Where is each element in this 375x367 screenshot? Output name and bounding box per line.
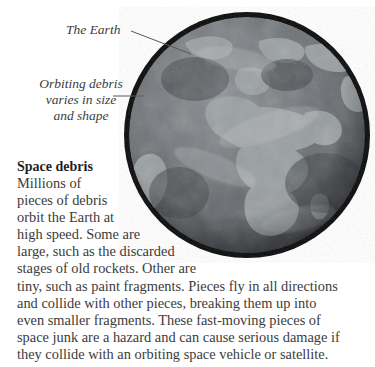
article-body-line: stages of old rockets. Other are <box>17 260 347 277</box>
article-body-line: orbit the Earth at <box>17 209 347 226</box>
article-heading: Space debris <box>17 158 347 175</box>
leader-line-the-earth <box>131 31 191 54</box>
article-body-line: pieces of debris <box>17 192 347 209</box>
article-body-line: Millions of <box>17 175 347 192</box>
article-body-line: high speed. Some are <box>17 226 347 243</box>
callout-orbiting-debris-line-3: and shape <box>22 108 140 124</box>
callout-orbiting-debris-line-2: varies in size <box>22 92 140 108</box>
article-body-line: tiny, such as paint fragments. Pieces fl… <box>17 278 347 295</box>
callout-orbiting-debris: Orbiting debris varies in size and shape <box>22 76 140 124</box>
article-body-line: even smaller fragments. These fast-movin… <box>17 312 347 329</box>
callout-the-earth-line-1: The Earth <box>66 22 120 38</box>
callout-orbiting-debris-line-1: Orbiting debris <box>22 76 140 92</box>
article-body-line: and collide with other pieces, breaking … <box>17 295 347 312</box>
article-body-line: they collide with an orbiting space vehi… <box>17 346 347 363</box>
callout-the-earth: The Earth <box>66 22 120 38</box>
article-body-line: space junk are a hazard and can cause se… <box>17 329 347 346</box>
article-text-block: Space debris Millions of pieces of debri… <box>17 158 347 363</box>
article-body-line: large, such as the discarded <box>17 243 347 260</box>
